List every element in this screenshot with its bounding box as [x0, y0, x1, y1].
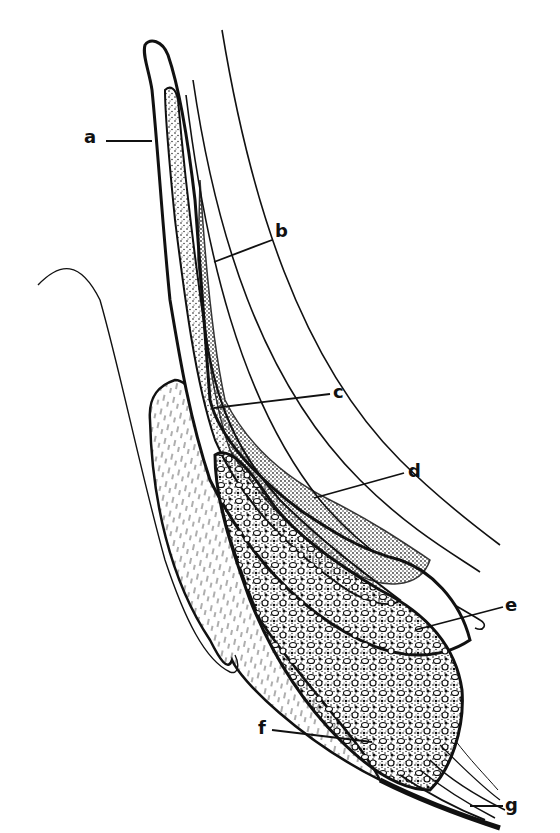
- figure-drawing: [0, 0, 560, 833]
- label-f: f: [258, 719, 266, 737]
- label-g: g: [505, 796, 518, 814]
- leader-c: [214, 394, 330, 408]
- label-b: b: [275, 222, 288, 240]
- leader-b: [214, 240, 272, 262]
- label-c: c: [333, 383, 344, 401]
- label-d: d: [408, 462, 421, 480]
- leader-d: [314, 473, 404, 498]
- label-a: a: [84, 128, 96, 146]
- anatomical-figure: a b c d e f g: [0, 0, 560, 833]
- label-e: e: [505, 596, 517, 614]
